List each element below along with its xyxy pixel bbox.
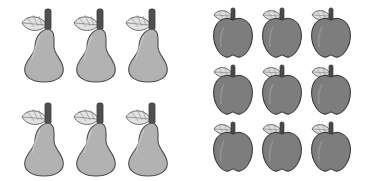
apple-icon <box>307 64 355 118</box>
pear-leaf-icon <box>22 15 47 30</box>
pear-cell-4 <box>18 100 70 178</box>
pear-body <box>25 29 64 82</box>
apple-cell-9 <box>306 121 355 176</box>
apple-cell-2 <box>258 6 307 61</box>
apple-cell-8 <box>258 121 307 176</box>
pear-cell-2 <box>70 6 122 84</box>
pear-stem-icon <box>45 103 51 124</box>
pear-cell-3 <box>122 6 174 84</box>
apple-icon <box>209 121 257 175</box>
pear-icon <box>18 6 70 84</box>
pear-cell-5 <box>70 100 122 178</box>
pear-stem-icon <box>97 9 103 30</box>
apple-icon <box>209 64 257 118</box>
pear-cell-1 <box>18 6 70 84</box>
apple-cell-1 <box>209 6 258 61</box>
pear-icon <box>70 6 122 84</box>
pear-grid <box>18 6 168 176</box>
apple-icon <box>258 7 306 61</box>
pear-body <box>77 123 116 176</box>
pear-stem-icon <box>97 103 103 124</box>
pear-leaf-icon <box>126 109 151 124</box>
pear-group: 6 pears <box>0 0 185 181</box>
pear-body <box>129 29 168 82</box>
apple-body <box>311 18 350 57</box>
apple-cell-4 <box>209 63 258 118</box>
apple-body <box>263 133 302 172</box>
apple-body <box>311 133 350 172</box>
apple-icon <box>258 64 306 118</box>
apple-icon <box>258 121 306 175</box>
apple-body <box>214 18 253 57</box>
apple-body <box>214 75 253 114</box>
apple-cell-7 <box>209 121 258 176</box>
apple-icon <box>307 7 355 61</box>
apple-icon <box>209 7 257 61</box>
apple-icon <box>307 121 355 175</box>
apple-cell-3 <box>306 6 355 61</box>
pear-leaf-icon <box>74 109 99 124</box>
apple-grid <box>209 6 355 176</box>
apple-body <box>311 75 350 114</box>
apple-body <box>263 18 302 57</box>
pear-icon <box>122 100 174 178</box>
pear-stem-icon <box>45 9 51 30</box>
pear-body <box>129 123 168 176</box>
pear-cell-6 <box>122 100 174 178</box>
pear-leaf-icon <box>22 109 47 124</box>
apple-cell-5 <box>258 63 307 118</box>
apple-cell-6 <box>306 63 355 118</box>
pear-leaf-icon <box>126 15 151 30</box>
pear-body <box>77 29 116 82</box>
illustration-canvas: 6 pears <box>0 0 369 181</box>
pear-icon <box>122 6 174 84</box>
pear-stem-icon <box>149 103 155 124</box>
pear-body <box>25 123 64 176</box>
pear-icon <box>70 100 122 178</box>
pear-stem-icon <box>149 9 155 30</box>
pear-leaf-icon <box>74 15 99 30</box>
apple-body <box>263 75 302 114</box>
pear-icon <box>18 100 70 178</box>
apple-group: 9 apples <box>185 0 369 181</box>
apple-body <box>214 133 253 172</box>
